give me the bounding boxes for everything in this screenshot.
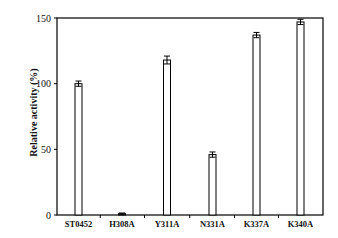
y-tick-label: 0: [46, 210, 51, 221]
x-tick-label: Y311A: [155, 219, 180, 229]
y-axis-label: Relative activity (%): [28, 58, 39, 168]
bar-n331a: [209, 155, 216, 215]
y-tick-label: 150: [36, 13, 51, 24]
plot-area: 050100150ST0452H308AY311AN331AK337AK340A: [0, 0, 338, 238]
bar-st0452: [75, 84, 82, 215]
x-tick-label: K340A: [288, 219, 314, 229]
x-tick-label: ST0452: [65, 219, 92, 229]
x-tick-label: K337A: [244, 219, 270, 229]
x-tick-label: N331A: [200, 219, 226, 229]
x-tick-label: H308A: [109, 219, 135, 229]
bar-chart: Relative activity (%) 050100150ST0452H30…: [0, 0, 338, 238]
y-tick-label: 50: [41, 144, 51, 155]
bar-y311a: [164, 60, 171, 215]
bar-k337a: [253, 35, 260, 215]
bar-k340a: [297, 22, 304, 215]
plot-frame: [57, 18, 323, 215]
